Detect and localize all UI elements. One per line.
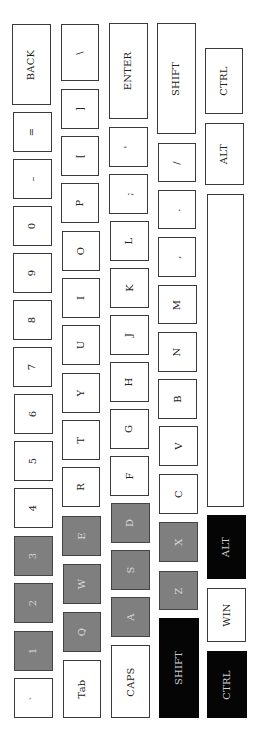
key-4[interactable]: 4 [14,488,53,528]
key-1[interactable]: 1 [14,631,53,671]
key-label: ] [75,107,85,111]
key-label: CTRL [222,670,232,699]
key-label: U [76,341,86,350]
key-label: G [124,425,134,433]
key-ralt[interactable]: ALT [205,123,244,185]
key-label: BACK [27,49,37,80]
key-label: 5 [29,458,39,465]
key-label: D [126,519,136,527]
key-label: SHIFT [174,651,184,685]
key-back[interactable]: BACK [12,24,51,105]
key-p[interactable]: P [61,183,99,223]
key-label: CTRL [219,66,229,95]
key-space[interactable] [207,194,244,507]
key-label: ALT [221,537,231,557]
key-comma[interactable]: , [158,237,196,277]
key-label: F [124,472,134,479]
key-label: M [172,299,182,309]
key-label: ` [28,695,38,700]
key-win[interactable]: WIN [207,588,246,642]
key-rshift[interactable]: SHIFT [157,23,196,134]
key-label: = [28,128,38,137]
key-label: R [76,483,86,491]
key-tab[interactable]: Tab [63,660,101,718]
key-n[interactable]: N [158,332,197,372]
key-label: E [77,532,87,540]
key-i[interactable]: I [62,278,100,318]
key-v[interactable]: V [159,426,198,466]
key-t[interactable]: T [62,420,100,460]
key-label: , [172,255,182,258]
key-y[interactable]: Y [62,373,100,413]
key-0[interactable]: 0 [13,206,52,246]
key-a[interactable]: A [111,597,150,637]
key-period[interactable]: . [158,190,196,229]
key-k[interactable]: K [110,268,149,308]
key-rbracket[interactable]: ] [61,89,99,129]
key-label: H [124,378,134,387]
key-j[interactable]: J [110,315,149,355]
key-c[interactable]: C [159,474,198,514]
key-label: ' [123,146,133,149]
key-minus[interactable]: – [13,159,52,199]
key-backtick[interactable]: ` [14,678,53,718]
key-r[interactable]: R [62,467,100,507]
key-equals[interactable]: = [13,112,52,152]
key-6[interactable]: 6 [14,394,53,434]
key-rctrl[interactable]: CTRL [205,48,243,114]
key-label: 6 [29,411,39,418]
key-lbracket[interactable]: [ [61,136,99,176]
key-f[interactable]: F [110,456,149,496]
key-3[interactable]: 3 [14,536,53,576]
key-label: C [173,490,183,498]
key-label: [ [75,154,85,158]
on-screen-keyboard: BACK=–0987654321`\][POIUYTREWQTabENTER';… [0,0,257,754]
key-label: I [76,296,86,300]
key-h[interactable]: H [110,362,149,402]
key-2[interactable]: 2 [14,583,53,623]
key-slash[interactable]: / [158,143,196,182]
key-x[interactable]: X [159,522,198,562]
key-7[interactable]: 7 [13,347,52,387]
key-label: 4 [29,505,39,512]
key-g[interactable]: G [110,409,149,449]
key-caps[interactable]: CAPS [111,645,150,718]
key-label: 0 [28,223,38,230]
key-semicolon[interactable]: ; [109,174,148,214]
key-label: CAPS [125,667,135,696]
key-e[interactable]: E [62,516,101,556]
key-z[interactable]: Z [159,571,198,610]
key-label: ENTER [124,52,134,91]
key-o[interactable]: O [62,231,100,271]
key-label: O [76,247,86,255]
key-lalt[interactable]: ALT [207,515,246,579]
key-lctrl[interactable]: CTRL [207,651,247,718]
key-label: Z [174,587,184,594]
key-quote[interactable]: ' [109,127,148,167]
key-lshift[interactable]: SHIFT [159,618,199,718]
key-8[interactable]: 8 [13,300,52,340]
key-b[interactable]: B [158,379,197,419]
key-label: B [173,395,183,403]
key-label: SHIFT [171,61,181,95]
key-label: / [172,161,182,165]
key-enter[interactable]: ENTER [109,23,148,119]
key-label: Y [76,390,86,397]
key-5[interactable]: 5 [14,441,53,481]
key-label: Tab [77,680,87,699]
key-m[interactable]: M [158,285,197,324]
key-9[interactable]: 9 [13,253,52,293]
key-u[interactable]: U [62,325,100,365]
key-label: J [125,333,135,337]
key-l[interactable]: L [110,221,149,261]
key-s[interactable]: S [111,550,150,590]
key-q[interactable]: Q [63,612,101,652]
key-d[interactable]: D [111,503,150,543]
key-label: WIN [222,603,232,627]
key-label: 2 [29,600,39,607]
key-label: S [126,566,136,573]
key-label: ALT [219,144,229,164]
key-label: – [27,176,37,181]
key-backslash[interactable]: \ [61,24,99,81]
key-w[interactable]: W [63,564,101,604]
